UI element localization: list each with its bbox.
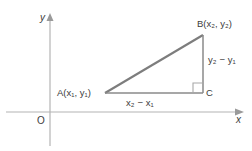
leg-label-vertical: y₂ − y₁ bbox=[208, 55, 236, 65]
axes-group bbox=[6, 13, 244, 146]
x-axis-label: x bbox=[236, 115, 241, 125]
origin-label: O bbox=[37, 116, 45, 126]
right-angle-marker-icon bbox=[193, 83, 203, 93]
y-axis-label: y bbox=[40, 13, 45, 23]
triangle-hypotenuse-ab bbox=[105, 35, 203, 93]
y-axis-arrow-icon bbox=[47, 13, 54, 21]
vertex-label-c: C bbox=[206, 88, 213, 98]
vertex-label-b: B(x₂, y₂) bbox=[197, 19, 232, 29]
geometry-figure: B(x₂, y₂) A(x₁, y₁) C x₂ − x₁ y₂ − y₁ y … bbox=[0, 0, 252, 151]
triangle-group bbox=[105, 35, 203, 93]
leg-label-horizontal: x₂ − x₁ bbox=[126, 98, 154, 108]
vertex-label-a: A(x₁, y₁) bbox=[57, 88, 91, 98]
